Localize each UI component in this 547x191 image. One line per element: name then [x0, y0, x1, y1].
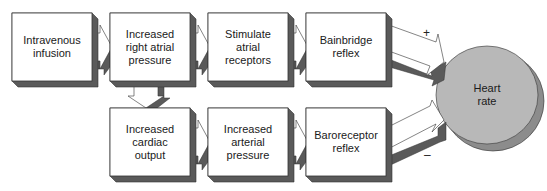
node-label-bain: Bainbridge reflex [306, 13, 386, 81]
minus-sign: – [424, 148, 431, 162]
node-label-sar: Stimulate atrial receptors [208, 13, 288, 81]
node-label-hr: Heart rate [447, 70, 527, 120]
arrow-bain-to-hr [386, 24, 446, 86]
node-label-baro: Baroreceptor reflex [306, 108, 386, 176]
arrow-baro-to-hr [384, 100, 446, 168]
node-label-co: Increased cardiac output [110, 108, 190, 176]
node-label-ap: Increased arterial pressure [208, 108, 288, 176]
plus-sign: + [423, 26, 430, 40]
node-label-rap: Increased right atrial pressure [110, 13, 190, 81]
node-label-iv: Intravenous infusion [12, 13, 92, 81]
